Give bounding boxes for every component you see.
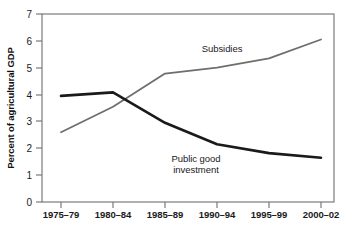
x-tick-label-2: 1985–89	[147, 209, 183, 220]
y-tick-label-4: 4	[26, 90, 32, 101]
y-tick-label-1: 1	[26, 170, 32, 181]
y-tick-label-2: 2	[26, 143, 32, 154]
y-tick-label-3: 3	[26, 116, 32, 127]
y-tick-label-7: 7	[26, 9, 32, 20]
series-annotation-subsidies: Subsidies	[202, 43, 243, 54]
y-axis-ticks	[36, 14, 42, 202]
x-tick-label-5: 2000–02	[303, 209, 339, 220]
y-tick-label-6: 6	[26, 36, 32, 47]
y-tick-label-0: 0	[26, 197, 32, 208]
series-annotation-public-good-line1: Public good	[171, 153, 220, 164]
chart-figure: 0 1 2 3 4 5 6 7 1975–79 1980–84 1985–89 …	[0, 0, 350, 226]
line-chart: 0 1 2 3 4 5 6 7 1975–79 1980–84 1985–89 …	[0, 0, 350, 226]
x-tick-label-4: 1995–99	[251, 209, 287, 220]
x-tick-label-1: 1980–84	[95, 209, 132, 220]
series-annotation-public-good-line2: investment	[173, 164, 219, 175]
x-tick-label-3: 1990–94	[199, 209, 236, 220]
y-axis-title: Percent of agricultural GDP	[5, 47, 16, 169]
y-tick-label-5: 5	[26, 63, 32, 74]
x-axis-ticks	[61, 202, 321, 208]
x-tick-label-0: 1975–79	[43, 209, 79, 220]
